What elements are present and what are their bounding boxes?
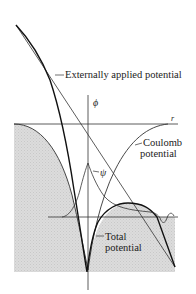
psi-label: ψ <box>100 167 107 178</box>
phi-axis-label: ϕ <box>93 97 98 108</box>
field-emission-potential-diagram: Externally applied potential ϕ r Coulomb… <box>0 0 196 294</box>
coulomb-label-line2: potential <box>140 148 177 159</box>
total-potential-label-line2: potential <box>105 242 142 253</box>
r-axis-label: r <box>171 114 175 123</box>
coulomb-label-line1: Coulomb <box>143 137 182 148</box>
external-potential-label: Externally applied potential <box>65 69 182 80</box>
total-potential-label-line1: Total <box>105 231 127 242</box>
